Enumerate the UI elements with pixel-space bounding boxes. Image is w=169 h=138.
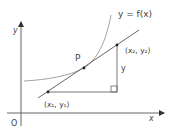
point-2-dot <box>116 44 119 47</box>
rise-label: y <box>121 64 126 73</box>
origin-label: O <box>11 119 17 128</box>
diagram-root: y = f(x) y x O P (x₂, y₂) y (x₁, y₁) <box>0 0 169 138</box>
point-1-dot <box>47 91 50 94</box>
right-angle-marker <box>111 86 117 92</box>
tangent-diagram: y = f(x) y x O P (x₂, y₂) y (x₁, y₁) <box>0 0 169 138</box>
point-2-label: (x₂, y₂) <box>125 46 151 55</box>
y-axis-label: y <box>12 26 18 35</box>
point-1-label: (x₁, y₁) <box>44 100 70 109</box>
point-p-label: P <box>75 53 81 63</box>
function-curve <box>24 15 111 81</box>
curve-label: y = f(x) <box>118 9 152 19</box>
x-axis-label: x <box>148 114 154 123</box>
point-p-dot <box>83 67 86 70</box>
